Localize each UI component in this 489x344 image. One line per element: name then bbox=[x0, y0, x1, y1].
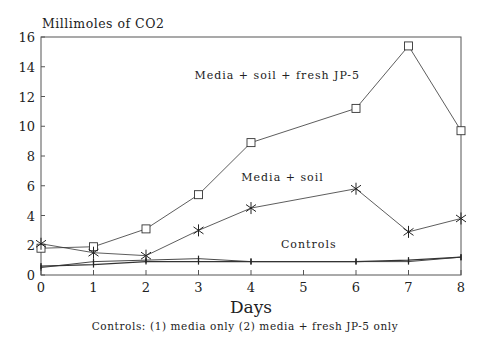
x-tick-label: 1 bbox=[89, 280, 97, 295]
y-tick-label: 16 bbox=[18, 30, 35, 45]
x-tick-label: 3 bbox=[194, 280, 202, 295]
y-tick-label: 0 bbox=[27, 268, 35, 283]
y-tick-label: 4 bbox=[27, 209, 35, 224]
x-axis-label: Days bbox=[230, 297, 272, 317]
square-marker-icon bbox=[142, 225, 150, 233]
y-tick-label: 2 bbox=[27, 238, 35, 253]
y-axis-label: Millimoles of CO2 bbox=[42, 16, 164, 31]
square-marker-icon bbox=[247, 139, 255, 147]
x-tick-label: 8 bbox=[457, 280, 465, 295]
x-tick-label: 5 bbox=[299, 280, 307, 295]
series-line-1 bbox=[41, 189, 461, 256]
co2-line-chart: 0246810121416012345678Millimoles of CO2D… bbox=[0, 0, 489, 344]
y-tick-label: 14 bbox=[18, 60, 35, 75]
series-annotation: Media + soil + fresh JP-5 bbox=[194, 69, 360, 82]
footnote: Controls: (1) media only (2) media + fre… bbox=[92, 320, 399, 332]
square-marker-icon bbox=[457, 127, 465, 135]
y-tick-label: 8 bbox=[27, 149, 35, 164]
y-tick-label: 6 bbox=[27, 179, 35, 194]
y-tick-label: 10 bbox=[18, 119, 35, 134]
square-marker-icon bbox=[352, 104, 360, 112]
x-tick-label: 2 bbox=[142, 280, 150, 295]
square-marker-icon bbox=[405, 42, 413, 50]
x-tick-label: 7 bbox=[404, 280, 412, 295]
y-tick-label: 12 bbox=[18, 90, 35, 105]
square-marker-icon bbox=[195, 191, 203, 199]
series-annotation: Controls bbox=[281, 238, 337, 251]
x-tick-label: 4 bbox=[247, 280, 255, 295]
x-tick-label: 6 bbox=[352, 280, 360, 295]
x-tick-label: 0 bbox=[37, 280, 45, 295]
series-annotation: Media + soil bbox=[241, 171, 323, 184]
